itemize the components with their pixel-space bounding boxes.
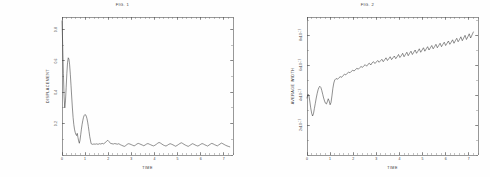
y-tick-label: 6x10-17 [298,59,303,72]
x-axis-title: TIME [142,166,153,170]
figure-panel-2: FIG. 2 012345672x10-174x10-176x10-178x10… [245,0,490,177]
y-tick-label: 4x10-17 [298,89,303,102]
x-tick-label: 7 [223,157,225,161]
x-axis-title: TIME [387,166,398,170]
plot-frame [62,17,233,155]
y-tick-label: 0.8 [54,27,58,32]
x-tick-label: 5 [177,157,179,161]
x-tick-label: 4 [398,157,400,161]
plot-frame [307,17,478,155]
x-tick-label: 6 [445,157,447,161]
figure-sheet: FIG. 1 012345670.20.40.60.8TIMEDISPLACEM… [0,0,490,177]
plot-fig-2: 012345672x10-174x10-176x10-178x10-17TIME… [245,0,490,177]
y-axis-title: DISPLACEMENT [46,69,50,103]
x-tick-label: 2 [107,157,109,161]
plot-group: 012345672x10-174x10-176x10-178x10-17TIME… [291,17,479,170]
data-series-displacement [62,21,230,147]
x-tick-label: 7 [468,157,470,161]
x-tick-label: 2 [352,157,354,161]
x-tick-label: 3 [130,157,132,161]
y-tick-label: 8x10-17 [298,29,303,42]
y-tick-label: 0.2 [54,121,58,126]
x-tick-label: 5 [422,157,424,161]
x-tick-label: 4 [153,157,155,161]
plot-group: 012345670.20.40.60.8TIMEDISPLACEMENT [46,17,234,170]
x-tick-label: 3 [375,157,377,161]
y-axis-title: AVERAGE WIDTH [291,68,295,105]
figure-panel-1: FIG. 1 012345670.20.40.60.8TIMEDISPLACEM… [0,0,245,177]
x-tick-label: 0 [61,157,63,161]
y-tick-label: 0.4 [54,90,58,95]
y-tick-label: 2x10-17 [298,119,303,132]
x-tick-label: 1 [329,157,331,161]
y-tick-label: 0.6 [54,58,58,63]
plot-fig-1: 012345670.20.40.60.8TIMEDISPLACEMENT [0,0,245,177]
x-tick-label: 6 [200,157,202,161]
x-tick-label: 1 [84,157,86,161]
data-series-average-width [307,32,473,116]
x-tick-label: 0 [306,157,308,161]
